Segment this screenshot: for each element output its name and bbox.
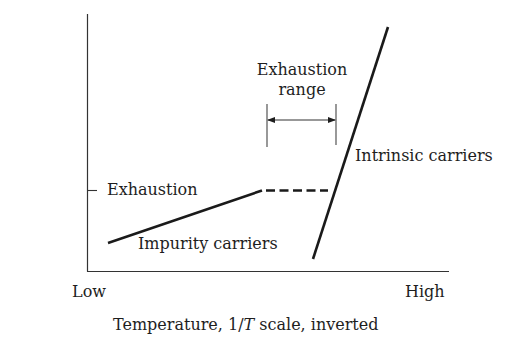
exhaustion-tick-label: Exhaustion	[107, 182, 198, 198]
x-axis-label: Temperature, 1/T scale, inverted	[113, 317, 379, 333]
impurity-carriers-label: Impurity carriers	[138, 236, 278, 252]
intrinsic-carriers-label: Intrinsic carriers	[355, 148, 493, 164]
x-low-label: Low	[72, 284, 106, 300]
x-high-label: High	[405, 284, 445, 300]
exhaustion-range-label-line1: Exhaustion	[248, 62, 356, 78]
x-axis-label-post: scale, inverted	[254, 315, 378, 334]
exhaustion-range-label-line2: range	[248, 82, 356, 98]
t-symbol: T	[244, 315, 255, 334]
x-axis-label-pre: Temperature, 1/	[113, 315, 244, 334]
